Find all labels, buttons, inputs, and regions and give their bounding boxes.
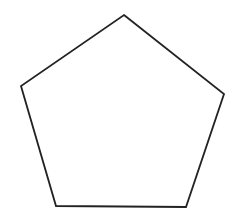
figure-canvas	[0, 0, 236, 215]
canvas-background	[0, 0, 236, 215]
pentagon-svg	[0, 0, 236, 215]
